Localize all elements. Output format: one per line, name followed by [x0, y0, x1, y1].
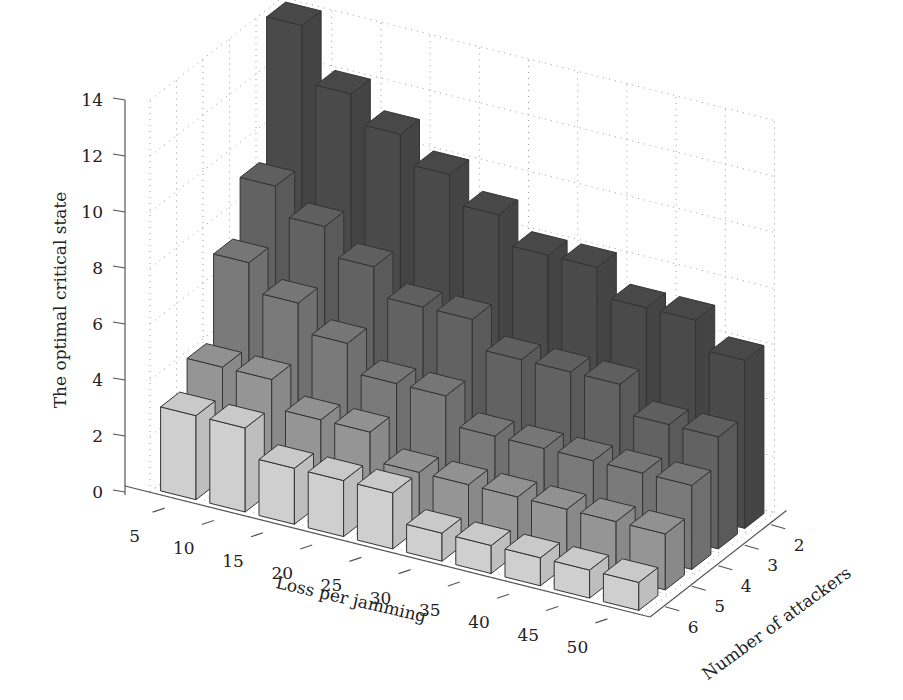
bar-side-face [718, 422, 737, 549]
bar-front-face [308, 472, 343, 537]
x-tick [153, 508, 165, 512]
x-tick [349, 557, 361, 561]
x-tick-label: 50 [567, 637, 589, 657]
y-axis-title: Number of attackers [698, 562, 855, 683]
y-tick [718, 566, 732, 570]
z-tick [113, 434, 125, 436]
x-tick [497, 594, 509, 598]
y-tick-label: 3 [767, 555, 778, 575]
z-tick [113, 490, 125, 492]
bars [161, 2, 764, 610]
x-tick [546, 607, 558, 611]
z-tick [113, 266, 125, 268]
bar [161, 392, 216, 500]
bar [357, 469, 412, 549]
bar-front-face [357, 484, 392, 549]
x-tick [448, 582, 460, 586]
z-tick-label: 0 [92, 482, 103, 502]
bar [210, 404, 264, 512]
x-tick [595, 619, 607, 623]
z-tick-label: 6 [92, 314, 103, 334]
x-tick-label: 5 [129, 526, 140, 546]
grid-line [150, 0, 775, 121]
bar [259, 445, 314, 525]
z-tick-label: 10 [81, 202, 103, 222]
x-tick [202, 520, 214, 524]
y-tick [665, 607, 679, 611]
z-tick [113, 210, 125, 212]
y-tick [745, 545, 759, 549]
z-tick-label: 12 [81, 146, 103, 166]
z-tick-label: 8 [92, 258, 103, 278]
x-tick-label: 10 [173, 538, 195, 558]
z-tick-label: 14 [81, 90, 103, 110]
bar-front-face [161, 407, 196, 500]
bar-chart-3d: 02468101214510152025303540455023456 The … [0, 0, 903, 700]
z-tick [113, 98, 125, 100]
bar [308, 457, 363, 537]
y-tick-label: 6 [688, 617, 699, 637]
y-tick-label: 5 [714, 596, 725, 616]
bar-front-face [259, 460, 294, 525]
x-tick [399, 570, 411, 574]
x-tick-label: 40 [468, 612, 490, 632]
x-axis-title: Loss per jamming [274, 572, 428, 626]
x-tick-label: 45 [517, 625, 539, 645]
z-tick [113, 322, 125, 324]
z-tick [113, 154, 125, 156]
z-axis-title: The optimal critical state [50, 192, 70, 409]
y-tick [771, 525, 785, 529]
z-tick-label: 2 [92, 426, 103, 446]
bar-side-face [745, 346, 764, 529]
bar-front-face [210, 419, 245, 512]
y-tick [692, 586, 706, 590]
x-tick [251, 533, 263, 537]
z-tick-label: 4 [92, 370, 103, 390]
x-tick [300, 545, 312, 549]
y-tick-label: 4 [741, 576, 752, 596]
z-tick [113, 378, 125, 380]
x-tick-label: 15 [222, 551, 244, 571]
y-tick-label: 2 [794, 535, 805, 555]
bar-side-face [692, 471, 711, 570]
